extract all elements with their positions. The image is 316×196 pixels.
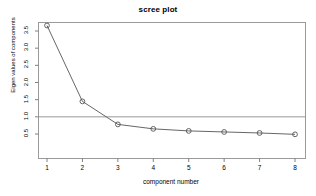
x-tick-label: 6 xyxy=(217,164,231,171)
eigenvalue-series-line xyxy=(47,26,295,135)
x-tick-label: 8 xyxy=(288,164,302,171)
x-tick-label: 5 xyxy=(182,164,196,171)
x-tick-label: 7 xyxy=(253,164,267,171)
y-tick-label: 1.0 xyxy=(23,107,29,125)
x-tick-label: 1 xyxy=(40,164,54,171)
data-line xyxy=(47,26,295,135)
y-tick-label: 3.5 xyxy=(23,21,29,39)
plot-frame-box xyxy=(39,23,306,159)
x-tick-label: 4 xyxy=(146,164,160,171)
data-point-markers xyxy=(45,23,298,137)
y-tick-label: 3.0 xyxy=(23,38,29,56)
x-tick-label: 3 xyxy=(111,164,125,171)
y-tick-label: 0.5 xyxy=(23,124,29,142)
x-tick-label: 2 xyxy=(75,164,89,171)
y-tick-label: 2.0 xyxy=(23,73,29,91)
y-tick-label: 1.5 xyxy=(23,90,29,108)
x-axis-ticks xyxy=(47,159,295,163)
y-tick-label: 2.5 xyxy=(23,55,29,73)
y-axis-ticks xyxy=(35,31,39,134)
scree-plot-figure: scree plot Eigen values of components co… xyxy=(0,0,316,196)
